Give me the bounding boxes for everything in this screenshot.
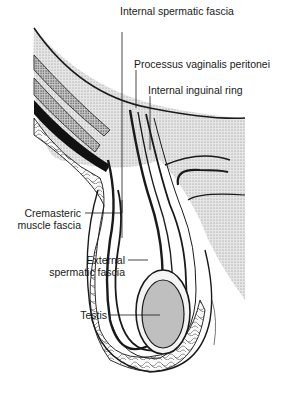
label-internal-spermatic-fascia: Internal spermatic fascia xyxy=(120,5,234,17)
label-processus-vaginalis: Processus vaginalis peritonei xyxy=(134,58,270,70)
scrotal-skin-detail xyxy=(212,300,216,345)
label-cremasteric-2: muscle fascia xyxy=(11,219,81,231)
label-testis: Testis xyxy=(60,309,107,321)
testis-body xyxy=(142,280,184,348)
label-internal-inguinal-ring: Internal inguinal ring xyxy=(148,84,243,96)
label-external-2: spermatic fascia xyxy=(38,266,125,278)
label-cremasteric-1: Cremasteric xyxy=(17,207,81,219)
label-external-1: External xyxy=(60,254,125,266)
